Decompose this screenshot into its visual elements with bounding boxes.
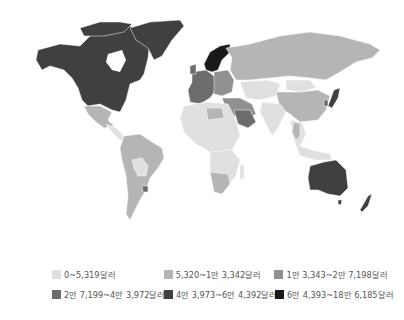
region-south-america[interactable] xyxy=(120,134,164,220)
region-china[interactable] xyxy=(276,90,330,122)
legend-label: 1만 3,343~2만 7,198달러 xyxy=(286,268,387,280)
region-madagascar[interactable] xyxy=(240,164,244,180)
region-australia[interactable] xyxy=(308,160,348,196)
world-map xyxy=(0,0,404,240)
region-japan[interactable] xyxy=(328,88,340,108)
legend-label: 4만 3,973~6만 4,392달러 xyxy=(176,288,277,300)
legend-swatch xyxy=(164,290,173,299)
region-libya-algeria[interactable] xyxy=(206,108,224,120)
region-russia[interactable] xyxy=(226,32,380,80)
region-uk[interactable] xyxy=(190,64,196,74)
region-western-europe[interactable] xyxy=(188,70,216,104)
legend-label: 6만 4,393~18만 6,185달러 xyxy=(287,288,394,300)
region-mongolia[interactable] xyxy=(286,80,316,92)
legend: 0~5,319달러 5,320~1만 3,342달러 1만 3,343~2만 7… xyxy=(52,264,404,304)
region-central-america[interactable] xyxy=(106,124,126,140)
region-mexico[interactable] xyxy=(84,106,114,128)
legend-swatch xyxy=(275,290,284,299)
legend-item-0: 0~5,319달러 xyxy=(52,268,164,280)
legend-label: 5,320~1만 3,342달러 xyxy=(176,268,262,280)
legend-swatch xyxy=(164,270,173,279)
region-eastern-europe[interactable] xyxy=(214,70,234,96)
legend-swatch xyxy=(52,270,61,279)
legend-item-3: 2만 7,199~4만 3,972달러 xyxy=(52,288,164,300)
legend-item-5: 6만 4,393~18만 6,185달러 xyxy=(275,288,404,300)
legend-item-4: 4만 3,973~6만 4,392달러 xyxy=(164,288,275,300)
legend-item-2: 1만 3,343~2만 7,198달러 xyxy=(274,268,404,280)
legend-label: 2만 7,199~4만 3,972달러 xyxy=(64,288,165,300)
region-new-zealand[interactable] xyxy=(360,194,372,212)
region-central-asia[interactable] xyxy=(240,80,280,100)
legend-swatch xyxy=(274,270,283,279)
region-south-korea[interactable] xyxy=(324,100,328,106)
region-north-america[interactable] xyxy=(36,26,150,112)
legend-row-2: 2만 7,199~4만 3,972달러 4만 3,973~6만 4,392달러 … xyxy=(52,284,404,304)
legend-label: 0~5,319달러 xyxy=(64,268,116,280)
legend-row-1: 0~5,319달러 5,320~1만 3,342달러 1만 3,343~2만 7… xyxy=(52,264,404,284)
region-uruguay[interactable] xyxy=(142,186,148,192)
legend-item-1: 5,320~1만 3,342달러 xyxy=(164,268,275,280)
region-india[interactable] xyxy=(260,102,286,136)
legend-swatch xyxy=(52,290,61,299)
region-southern-africa[interactable] xyxy=(210,172,230,194)
region-tasmania[interactable] xyxy=(338,200,342,205)
